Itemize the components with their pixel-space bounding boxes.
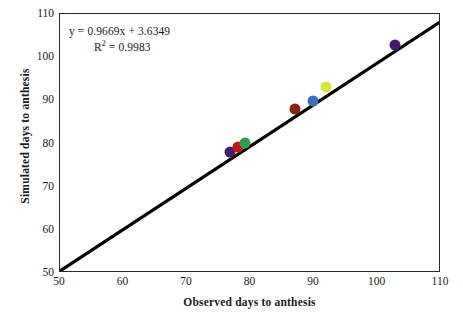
y-axis-tick-label: 50 — [7, 266, 59, 278]
x-axis-tick-label: 60 — [117, 275, 129, 287]
x-axis-tick-label: 50 — [53, 275, 65, 287]
data-point — [390, 39, 401, 50]
x-axis-tick-label: 70 — [180, 275, 192, 287]
x-axis-tick-label: 80 — [244, 275, 256, 287]
x-axis-tick-label: 110 — [432, 275, 449, 287]
one-to-one-reference-line — [60, 23, 439, 271]
y-axis-tick-label: 60 — [7, 223, 59, 235]
regression-equation: y = 0.9669x + 3.6349 — [66, 24, 226, 39]
y-axis-title: Simulated days to anthesis — [19, 7, 31, 266]
y-axis-tick-label: 100 — [7, 50, 59, 62]
y-axis-tick-label: 110 — [7, 7, 59, 19]
y-axis-tick-label: 90 — [7, 93, 59, 105]
r-squared-prefix: R — [94, 41, 102, 53]
y-axis-tick-label: 70 — [7, 180, 59, 192]
scatter-chart: 5060708090100110 Simulated days to anthe… — [0, 0, 463, 321]
x-axis-tick-labels: 5060708090100110 — [59, 275, 440, 293]
x-axis-title: Observed days to anthesis — [59, 296, 440, 308]
data-point — [289, 103, 300, 114]
x-axis-tick-label: 100 — [368, 275, 385, 287]
y-axis-tick-label: 80 — [7, 137, 59, 149]
data-point — [321, 82, 332, 93]
r-squared-number: = 0.9983 — [106, 41, 151, 53]
data-point — [308, 95, 319, 106]
r-squared-value: R2 = 0.9983 — [66, 39, 226, 55]
x-axis-tick-label: 90 — [307, 275, 319, 287]
regression-annotation: y = 0.9669x + 3.6349 R2 = 0.9983 — [66, 24, 226, 54]
data-point — [240, 137, 251, 148]
